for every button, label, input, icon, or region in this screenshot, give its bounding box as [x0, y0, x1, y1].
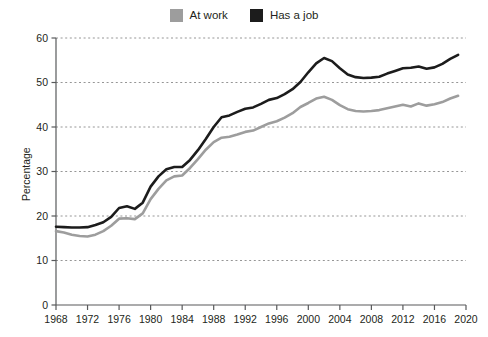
y-tick-label: 50 [36, 76, 48, 88]
x-tick-label: 2020 [454, 313, 478, 325]
y-tick-label: 0 [42, 299, 48, 311]
x-tick-label: 1996 [265, 313, 289, 325]
x-tick-label: 1968 [44, 313, 68, 325]
y-tick-group: 0102030405060 [36, 32, 56, 311]
x-tick-label: 2012 [391, 313, 415, 325]
x-tick-group: 1968197219761980198419881992199620002004… [44, 305, 478, 325]
gridlines-group [56, 38, 466, 261]
series-line-has-a-job [56, 55, 458, 228]
x-tick-label: 2016 [423, 313, 447, 325]
y-tick-label: 40 [36, 121, 48, 133]
series-line-at-work [56, 96, 458, 237]
chart-container: At work Has a job Percentage 01020304050… [0, 0, 488, 337]
y-tick-label: 10 [36, 254, 48, 266]
x-tick-label: 2008 [360, 313, 384, 325]
y-tick-label: 30 [36, 165, 48, 177]
x-tick-label: 1980 [139, 313, 163, 325]
x-tick-label: 1988 [202, 313, 226, 325]
y-tick-label: 60 [36, 32, 48, 44]
x-tick-label: 2004 [328, 313, 352, 325]
x-tick-label: 1976 [107, 313, 131, 325]
x-tick-label: 1984 [170, 313, 194, 325]
x-tick-label: 1992 [234, 313, 258, 325]
x-tick-label: 1972 [76, 313, 100, 325]
x-tick-label: 2000 [297, 313, 321, 325]
y-tick-label: 20 [36, 210, 48, 222]
line-chart-plot: 0102030405060 19681972197619801984198819… [0, 0, 488, 337]
